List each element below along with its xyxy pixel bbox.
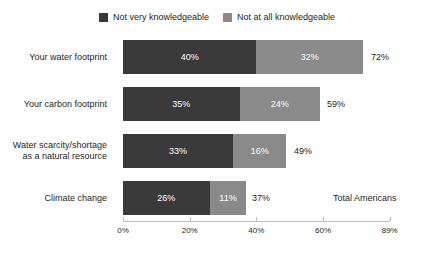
row-total-your-water-footprint: 72%: [371, 40, 389, 74]
stacked-bar-climate-change: 26% 11%: [123, 181, 246, 215]
annotation-total-americans: Total Americans: [333, 181, 397, 215]
bar-segment-not-very-knowledgeable: 33%: [123, 134, 233, 168]
legend-swatch-icon-light: [223, 13, 232, 22]
chart-row-climate-change: Climate change 26% 11% 37% Total America…: [0, 181, 434, 215]
row-label-line: Climate change: [44, 193, 107, 204]
row-label-water-scarcity-shortage: Water scarcity/shortage as a natural res…: [0, 134, 115, 168]
x-axis-tick-60: [323, 217, 324, 221]
row-total-your-carbon-footprint: 59%: [327, 87, 345, 121]
chart-legend: Not very knowledgeable Not at all knowle…: [0, 12, 434, 22]
bar-segment-not-at-all-knowledgeable: 11%: [210, 181, 247, 215]
x-axis-tick-80: [390, 217, 391, 221]
chart-plot-area: Your water footprint 40% 32% 72% Your ca…: [0, 40, 434, 225]
bar-segment-not-very-knowledgeable: 35%: [123, 87, 240, 121]
legend-label-not-at-all-knowledgeable: Not at all knowledgeable: [237, 12, 335, 22]
row-label-line: Your water footprint: [29, 52, 107, 63]
stacked-bar-your-water-footprint: 40% 32%: [123, 40, 363, 74]
x-axis-tick-label-60: 60%: [315, 226, 331, 235]
bar-segment-not-at-all-knowledgeable: 16%: [233, 134, 286, 168]
chart-row-your-carbon-footprint: Your carbon footprint 35% 24% 59%: [0, 87, 434, 121]
bar-segment-not-very-knowledgeable: 26%: [123, 181, 210, 215]
x-axis-tick-0: [123, 217, 124, 221]
bar-segment-not-at-all-knowledgeable: 32%: [256, 40, 363, 74]
x-axis-line: [123, 221, 390, 222]
legend-item-not-very-knowledgeable: Not very knowledgeable: [99, 12, 209, 22]
legend-item-not-at-all-knowledgeable: Not at all knowledgeable: [223, 12, 335, 22]
x-axis-tick-label-80: 89%: [382, 226, 398, 235]
bar-segment-not-at-all-knowledgeable: 24%: [240, 87, 320, 121]
x-axis-tick-label-40: 40%: [248, 226, 264, 235]
legend-swatch-icon-dark: [99, 13, 108, 22]
stacked-bar-your-carbon-footprint: 35% 24%: [123, 87, 320, 121]
x-axis-tick-20: [190, 217, 191, 221]
row-label-climate-change: Climate change: [0, 181, 115, 215]
row-total-climate-change: 37%: [252, 181, 270, 215]
stacked-bar-water-scarcity-shortage: 33% 16%: [123, 134, 286, 168]
bar-segment-not-very-knowledgeable: 40%: [123, 40, 256, 74]
row-label-your-carbon-footprint: Your carbon footprint: [0, 87, 115, 121]
row-label-line: Your carbon footprint: [24, 99, 107, 110]
x-axis-tick-label-20: 20%: [182, 226, 198, 235]
row-label-line: Water scarcity/shortage: [13, 140, 107, 151]
chart-row-water-scarcity-shortage: Water scarcity/shortage as a natural res…: [0, 134, 434, 168]
row-label-your-water-footprint: Your water footprint: [0, 40, 115, 74]
row-label-line: as a natural resource: [22, 151, 107, 162]
chart-row-your-water-footprint: Your water footprint 40% 32% 72%: [0, 40, 434, 74]
row-total-water-scarcity-shortage: 49%: [294, 134, 312, 168]
x-axis-tick-label-0: 0%: [117, 226, 129, 235]
legend-label-not-very-knowledgeable: Not very knowledgeable: [113, 12, 209, 22]
x-axis-tick-40: [256, 217, 257, 221]
